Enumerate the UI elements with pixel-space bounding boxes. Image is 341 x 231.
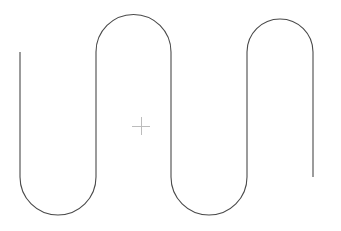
serpentine-path-svg	[0, 0, 341, 231]
crosshair-marker	[132, 117, 150, 135]
serpentine-path-stroke	[20, 15, 313, 216]
drawing-canvas	[0, 0, 341, 231]
